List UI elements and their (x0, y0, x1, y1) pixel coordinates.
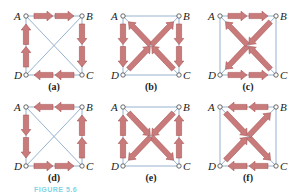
vertex-label-b: B (86, 10, 93, 22)
vertex-a (218, 14, 222, 18)
vertex-a (24, 14, 28, 18)
vertex-a (121, 105, 125, 109)
flow-arrow-icon (55, 102, 74, 112)
panel-label-b: (b) (145, 81, 157, 93)
flow-arrow-icon (21, 24, 31, 45)
flow-arrow-icon (34, 102, 53, 112)
flow-arrow-icon (228, 161, 247, 171)
vertex-label-d: D (207, 69, 216, 81)
flow-arrow-icon (228, 11, 247, 21)
panel-a: ABCD(a) (13, 10, 94, 93)
flow-arrow-icon (34, 70, 53, 80)
flow-arrow-icon (152, 46, 176, 71)
flow-arrow-icon (249, 102, 268, 112)
flow-arrow-icon (226, 22, 250, 47)
vertex-label-d: D (13, 160, 22, 172)
vertex-label-a: A (207, 101, 215, 113)
vertex-label-b: B (183, 10, 190, 22)
vertex-c (80, 164, 84, 168)
flow-arrow-icon (129, 135, 153, 160)
vertex-b (274, 14, 278, 18)
flow-arrow-icon (21, 115, 31, 136)
flow-arrow-icon (247, 113, 271, 138)
flow-arrow-icon (249, 46, 273, 71)
vertex-a (218, 105, 222, 109)
vertex-label-b: B (183, 101, 190, 113)
vertex-label-b: B (280, 10, 287, 22)
flow-arrow-icon (150, 22, 174, 47)
vertex-b (274, 105, 278, 109)
flow-arrow-icon (34, 161, 53, 171)
vertex-label-d: D (13, 69, 22, 81)
panel-label-a: (a) (48, 81, 60, 93)
panel-label-f: (f) (243, 172, 253, 184)
vertex-b (80, 14, 84, 18)
vertex-d (218, 73, 222, 77)
vertex-b (177, 105, 181, 109)
panel-e: ABCD(e) (110, 101, 191, 184)
vertex-label-a: A (13, 101, 21, 113)
vertex-label-c: C (86, 69, 94, 81)
flow-arrow-icon (129, 22, 153, 47)
flow-arrow-icon (21, 47, 31, 68)
flow-arrow-icon (118, 115, 128, 136)
flow-arrow-icon (127, 111, 151, 136)
vertex-label-c: C (183, 160, 191, 172)
flow-arrow-icon (249, 20, 273, 45)
figure-caption: FIGURE 5.6 (34, 186, 77, 192)
vertex-label-a: A (13, 10, 21, 22)
flow-arrow-icon (152, 111, 176, 136)
flow-arrow-icon (118, 47, 128, 68)
vertex-c (80, 73, 84, 77)
panel-c: ABCD(c) (207, 10, 288, 93)
flow-arrow-icon (77, 115, 87, 136)
vertex-label-b: B (86, 101, 93, 113)
vertex-label-c: C (86, 160, 94, 172)
vertex-c (274, 73, 278, 77)
vertex-label-d: D (110, 69, 119, 81)
flow-arrow-icon (55, 70, 74, 80)
vertex-c (177, 73, 181, 77)
flow-arrow-icon (21, 138, 31, 159)
flow-arrow-icon (249, 70, 268, 80)
flow-arrow-icon (34, 11, 53, 21)
flow-arrow-icon (224, 111, 248, 136)
flow-arrow-icon (174, 47, 184, 68)
flow-arrow-icon (77, 24, 87, 45)
vertex-label-c: C (280, 160, 288, 172)
flow-arrow-icon (174, 138, 184, 159)
vertex-label-c: C (183, 69, 191, 81)
vertex-label-d: D (110, 160, 119, 172)
panel-label-c: (c) (242, 81, 253, 93)
flow-arrow-icon (77, 138, 87, 159)
panel-d: ABCD(d) (13, 101, 94, 184)
vertex-d (24, 164, 28, 168)
flow-arrow-icon (174, 24, 184, 45)
vertex-d (24, 73, 28, 77)
flow-arrow-icon (228, 70, 247, 80)
flow-arrow-icon (249, 161, 268, 171)
vertex-d (121, 73, 125, 77)
flow-arrow-icon (55, 11, 74, 21)
flow-arrow-icon (150, 135, 174, 160)
vertex-label-a: A (110, 101, 118, 113)
flow-arrow-icon (55, 161, 74, 171)
flow-arrow-icon (174, 115, 184, 136)
flow-arrow-icon (127, 46, 151, 71)
flow-arrow-icon (224, 137, 248, 162)
vertex-d (218, 164, 222, 168)
vertex-label-a: A (207, 10, 215, 22)
vertex-c (274, 164, 278, 168)
network-flow-diagram: ABCD(a)ABCD(b)ABCD(c)ABCD(d)ABCD(e)ABCD(… (0, 0, 293, 192)
vertex-b (177, 14, 181, 18)
vertex-b (80, 105, 84, 109)
flow-arrow-icon (118, 24, 128, 45)
vertex-label-d: D (207, 160, 216, 172)
flow-arrow-icon (228, 102, 247, 112)
panel-label-e: (e) (145, 172, 156, 184)
vertex-a (24, 105, 28, 109)
vertex-a (121, 14, 125, 18)
flow-arrow-icon (77, 47, 87, 68)
flow-arrow-icon (118, 138, 128, 159)
vertex-label-b: B (280, 101, 287, 113)
